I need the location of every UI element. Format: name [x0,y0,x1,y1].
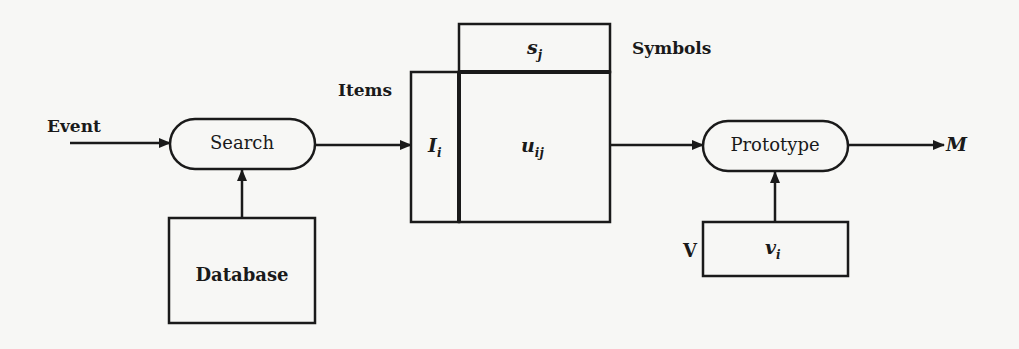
event-label: Event [47,116,101,136]
items-label: Items [338,80,392,100]
symbols-cell: sj [526,36,543,62]
symbols-label: Symbols [632,38,711,58]
database-label: Database [195,264,288,285]
search-label: Search [210,132,274,153]
prototype-label: Prototype [730,134,819,155]
items-cell: Ii [427,134,442,160]
matrix-cell: uij [521,134,544,160]
v-cell: vi [765,236,781,262]
flow-diagram: Event Search Database Items sj Symbols I… [0,0,1019,349]
v-label: V [682,240,698,261]
output-label: M [945,133,968,155]
